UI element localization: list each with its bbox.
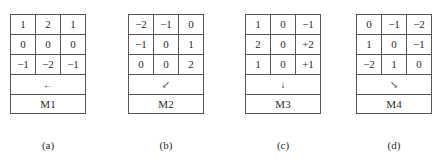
kernel-label: M2 — [129, 95, 204, 114]
matrix-cell: 0 — [271, 55, 296, 75]
panel-caption: (d) — [356, 139, 432, 151]
matrix-cell: 0 — [129, 55, 154, 75]
kernel-panel-m1: 1 2 1 0 0 0 −1 −2 −1 ← M1 — [10, 14, 86, 114]
matrix-cell: −2 — [407, 15, 432, 35]
matrix-row: 1 0 −1 — [246, 15, 321, 35]
matrix-cell: 1 — [179, 35, 204, 55]
matrix-row: −1 −2 −1 — [11, 55, 86, 75]
panel-caption: (a) — [10, 139, 86, 151]
matrix-cell: −1 — [61, 55, 86, 75]
matrix-cell: 0 — [407, 55, 432, 75]
kernel-label: M4 — [357, 95, 432, 114]
matrix-row: 1 0 −1 — [357, 35, 432, 55]
direction-row: ← — [11, 75, 86, 95]
matrix-cell: −2 — [129, 15, 154, 35]
matrix-cell: 1 — [246, 15, 271, 35]
matrix-cell: −1 — [296, 15, 321, 35]
matrix-cell: 0 — [61, 35, 86, 55]
matrix-cell: 0 — [36, 35, 61, 55]
kernel-table-m2: −2 −1 0 −1 0 1 0 0 2 ↙ M2 — [128, 14, 204, 114]
matrix-cell: 0 — [11, 35, 36, 55]
arrow-down-right-icon: ↘ — [390, 76, 398, 94]
matrix-cell: 1 — [11, 15, 36, 35]
arrow-down-left-icon: ↙ — [162, 76, 170, 94]
matrix-cell: +2 — [296, 35, 321, 55]
matrix-row: 2 0 +2 — [246, 35, 321, 55]
kernel-label: M3 — [246, 95, 321, 114]
matrix-cell: −1 — [11, 55, 36, 75]
matrix-cell: 0 — [271, 15, 296, 35]
matrix-cell: +1 — [296, 55, 321, 75]
matrix-cell: 1 — [357, 35, 382, 55]
matrix-row: 1 0 +1 — [246, 55, 321, 75]
matrix-row: −2 1 0 — [357, 55, 432, 75]
matrix-row: 0 −1 −2 — [357, 15, 432, 35]
direction-row: ↓ — [246, 75, 321, 95]
matrix-cell: 1 — [246, 55, 271, 75]
kernel-panel-m4: 0 −1 −2 1 0 −1 −2 1 0 ↘ M4 — [356, 14, 432, 114]
direction-row: ↘ — [357, 75, 432, 95]
matrix-cell: −1 — [154, 15, 179, 35]
kernel-table-m1: 1 2 1 0 0 0 −1 −2 −1 ← M1 — [10, 14, 86, 114]
panel-caption: (c) — [245, 139, 321, 151]
matrix-cell: −2 — [357, 55, 382, 75]
matrix-cell: −1 — [382, 15, 407, 35]
matrix-cell: 0 — [357, 15, 382, 35]
matrix-cell: 1 — [382, 55, 407, 75]
kernel-table-m3: 1 0 −1 2 0 +2 1 0 +1 ↓ M3 — [245, 14, 321, 114]
matrix-cell: −1 — [407, 35, 432, 55]
matrix-cell: −1 — [129, 35, 154, 55]
matrix-cell: 0 — [382, 35, 407, 55]
kernel-table-m4: 0 −1 −2 1 0 −1 −2 1 0 ↘ M4 — [356, 14, 432, 114]
matrix-cell: 0 — [179, 15, 204, 35]
matrix-cell: 0 — [154, 35, 179, 55]
arrow-left-icon: ← — [43, 76, 53, 94]
matrix-cell: 0 — [271, 35, 296, 55]
panel-caption: (b) — [128, 139, 204, 151]
matrix-cell: 2 — [246, 35, 271, 55]
matrix-cell: 2 — [179, 55, 204, 75]
arrow-down-icon: ↓ — [281, 76, 286, 94]
matrix-cell: 1 — [61, 15, 86, 35]
matrix-row: 0 0 2 — [129, 55, 204, 75]
matrix-row: 1 2 1 — [11, 15, 86, 35]
matrix-cell: 2 — [36, 15, 61, 35]
matrix-row: 0 0 0 — [11, 35, 86, 55]
matrix-row: −2 −1 0 — [129, 15, 204, 35]
kernel-panel-m2: −2 −1 0 −1 0 1 0 0 2 ↙ M2 — [128, 14, 204, 114]
kernel-panel-m3: 1 0 −1 2 0 +2 1 0 +1 ↓ M3 — [245, 14, 321, 114]
direction-row: ↙ — [129, 75, 204, 95]
matrix-row: −1 0 1 — [129, 35, 204, 55]
kernel-label: M1 — [11, 95, 86, 114]
matrix-cell: −2 — [36, 55, 61, 75]
matrix-cell: 0 — [154, 55, 179, 75]
